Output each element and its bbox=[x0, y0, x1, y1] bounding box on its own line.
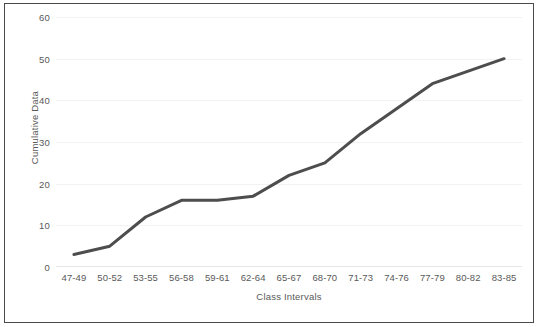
x-tick-2: 53-55 bbox=[133, 272, 158, 283]
x-tick-1: 50-52 bbox=[97, 272, 122, 283]
x-axis-title: Class Intervals bbox=[56, 291, 522, 302]
x-tick-10: 77-79 bbox=[420, 272, 445, 283]
y-axis-title: Cumulative Data bbox=[29, 68, 40, 188]
x-tick-8: 71-73 bbox=[348, 272, 373, 283]
x-tick-12: 83-85 bbox=[492, 272, 517, 283]
x-tick-3: 56-58 bbox=[169, 272, 194, 283]
x-axis-ticks: 47-49 50-52 53-55 56-58 59-61 62-64 65-6… bbox=[56, 272, 522, 288]
x-tick-7: 68-70 bbox=[312, 272, 337, 283]
series-cumulative-data bbox=[56, 17, 522, 267]
x-tick-9: 74-76 bbox=[384, 272, 409, 283]
x-tick-4: 59-61 bbox=[205, 272, 230, 283]
plot-area bbox=[56, 17, 522, 267]
y-axis-title-host: Cumulative Data bbox=[14, 17, 34, 267]
chart-page: 0 10 20 30 40 50 60 Cumulative Data 47-4… bbox=[0, 0, 538, 327]
x-tick-5: 62-64 bbox=[241, 272, 266, 283]
line-chart: 0 10 20 30 40 50 60 Cumulative Data 47-4… bbox=[0, 0, 538, 327]
x-tick-6: 65-67 bbox=[277, 272, 302, 283]
x-tick-11: 80-82 bbox=[456, 272, 481, 283]
x-tick-0: 47-49 bbox=[62, 272, 87, 283]
